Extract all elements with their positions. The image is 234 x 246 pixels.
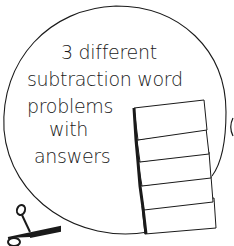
stacked-cards-icon xyxy=(134,100,216,234)
illustration xyxy=(0,0,234,246)
title-line-3: problems xyxy=(27,95,113,117)
title-line-2: subtraction word xyxy=(27,68,183,90)
next-circle-edge xyxy=(231,118,233,136)
title-line-5: answers xyxy=(34,145,110,167)
title-line-1: 3 different xyxy=(61,41,157,63)
title-line-4: with xyxy=(49,118,88,140)
scissors-icon xyxy=(8,204,60,246)
